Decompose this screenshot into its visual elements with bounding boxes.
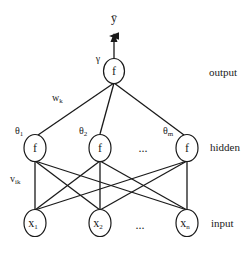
svg-text:f: f: [112, 64, 116, 78]
bias-theta-1: θ1: [15, 125, 24, 138]
input-node-2: x2: [89, 210, 111, 237]
hidden-output-weight-label: wk: [52, 92, 63, 105]
hidden-node-1: f: [24, 135, 46, 162]
input-hidden-edges: [35, 161, 187, 210]
bias-theta-2: θ2: [79, 125, 88, 138]
layer-label-input: input: [211, 217, 234, 229]
output-node: f: [104, 59, 125, 84]
layer-label-output: output: [209, 66, 237, 78]
svg-text:f: f: [98, 141, 102, 155]
arrowhead-icon: [111, 33, 118, 42]
input-node-n: xn: [176, 210, 198, 237]
svg-text:f: f: [185, 141, 189, 155]
output-symbol: ȳ: [111, 11, 117, 25]
output-weight-label: γ: [95, 53, 101, 64]
layer-label-hidden: hidden: [210, 141, 240, 153]
input-ellipsis: ...: [136, 218, 145, 232]
neural-network-diagram: ȳ γ f output wk θ1 θ2 θm f f ... f hidde…: [0, 0, 252, 255]
svg-text:f: f: [33, 141, 37, 155]
input-hidden-weight-label: vik: [10, 173, 21, 186]
hidden-ellipsis: ...: [139, 141, 148, 155]
hidden-node-m: f: [176, 135, 198, 162]
hidden-node-2: f: [89, 135, 111, 162]
input-node-1: x1: [24, 210, 46, 237]
